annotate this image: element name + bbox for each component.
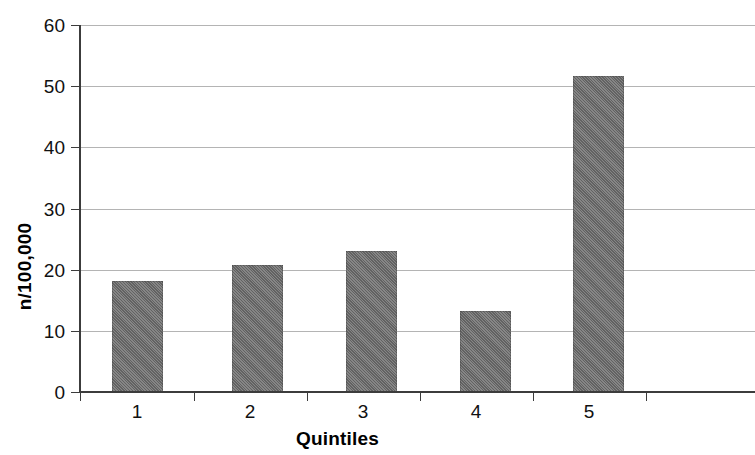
x-tick-boundary-4 bbox=[533, 392, 534, 401]
gridline-30 bbox=[80, 209, 755, 210]
bar-quintile-1 bbox=[112, 281, 163, 392]
bar-quintile-2 bbox=[232, 265, 283, 392]
x-axis-line bbox=[79, 391, 755, 393]
x-tick-label-2: 2 bbox=[220, 401, 280, 423]
y-tick-60 bbox=[71, 25, 80, 26]
x-tick-label-1: 1 bbox=[107, 401, 167, 423]
y-tick-30 bbox=[71, 209, 80, 210]
x-tick-boundary-5 bbox=[646, 392, 647, 401]
gridline-20 bbox=[80, 270, 755, 271]
gridline-60 bbox=[80, 25, 755, 26]
y-tick-0 bbox=[71, 392, 80, 393]
bar-quintile-5 bbox=[573, 76, 624, 392]
gridline-50 bbox=[80, 86, 755, 87]
x-tick-label-3: 3 bbox=[333, 401, 393, 423]
y-axis-title: n/100,000 bbox=[8, 0, 42, 455]
x-axis-title-text: Quintiles bbox=[296, 428, 379, 450]
bar-chart-figure: 60 50 40 30 20 10 0 1 2 3 4 5 n/100,000 … bbox=[0, 0, 755, 455]
x-tick-boundary-0 bbox=[80, 392, 81, 401]
x-axis-title: Quintiles bbox=[80, 428, 755, 450]
bar-quintile-4 bbox=[460, 311, 511, 392]
y-axis-title-text: n/100,000 bbox=[14, 223, 36, 310]
bar-quintile-3 bbox=[346, 251, 397, 392]
x-tick-label-4: 4 bbox=[446, 401, 506, 423]
plot-area bbox=[80, 25, 755, 392]
x-tick-boundary-2 bbox=[307, 392, 308, 401]
gridline-10 bbox=[80, 331, 755, 332]
x-tick-boundary-3 bbox=[420, 392, 421, 401]
gridline-40 bbox=[80, 147, 755, 148]
x-tick-boundary-1 bbox=[194, 392, 195, 401]
y-tick-50 bbox=[71, 86, 80, 87]
y-tick-40 bbox=[71, 147, 80, 148]
y-tick-20 bbox=[71, 270, 80, 271]
x-tick-label-5: 5 bbox=[559, 401, 619, 423]
y-tick-10 bbox=[71, 331, 80, 332]
